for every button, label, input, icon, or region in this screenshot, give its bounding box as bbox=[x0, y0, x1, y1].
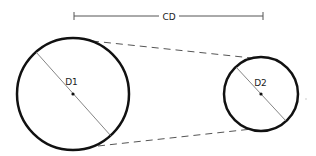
center-distance-dimension: CD bbox=[74, 12, 263, 22]
artifact-dot bbox=[305, 98, 306, 99]
cd-label: CD bbox=[162, 12, 175, 22]
diagram-canvas: CD D1 D2 bbox=[0, 0, 316, 156]
pulley-2-center-dot bbox=[259, 92, 262, 95]
pulley-2: D2 bbox=[224, 57, 298, 131]
pulley-1: D1 bbox=[17, 38, 129, 150]
belt-pulley-diagram: CD D1 D2 bbox=[0, 0, 316, 156]
pulley-2-label: D2 bbox=[254, 78, 267, 88]
pulley-1-label: D1 bbox=[65, 77, 78, 87]
belt-top-dashed bbox=[92, 41, 252, 58]
pulley-1-center-dot bbox=[71, 92, 74, 95]
belt-bottom-dashed bbox=[98, 129, 252, 146]
